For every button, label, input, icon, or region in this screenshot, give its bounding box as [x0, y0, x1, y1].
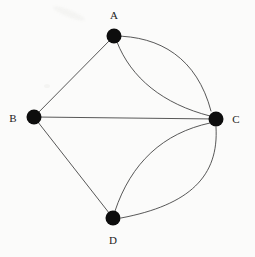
- graph-edge-a-c: [117, 42, 210, 116]
- graph-edge-c-d: [121, 127, 216, 218]
- graph-edge-b-d: [34, 117, 113, 218]
- vertex-label-b: B: [9, 113, 17, 124]
- graph-edge-b-c: [34, 117, 216, 119]
- vertex-d[interactable]: [106, 211, 121, 226]
- vertex-label-c: C: [232, 114, 240, 125]
- vertex-b[interactable]: [27, 110, 42, 125]
- vertex-label-a: A: [110, 10, 118, 21]
- graph-canvas: [0, 0, 255, 257]
- edge-layer: [34, 36, 216, 218]
- vertex-a[interactable]: [107, 29, 122, 44]
- graph-figure: ABCD: [0, 0, 255, 257]
- graph-edge-a-b: [34, 36, 114, 117]
- vertex-label-d: D: [109, 235, 117, 246]
- graph-edge-c-d: [115, 123, 210, 211]
- vertex-c[interactable]: [209, 112, 224, 127]
- graph-edge-a-c: [114, 36, 211, 111]
